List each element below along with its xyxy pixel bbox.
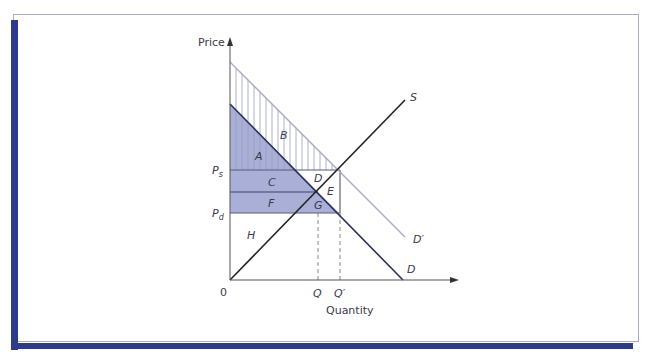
supply-demand-diagram: Price Quantity 0 S D′ D Ps Pd Q Q′ A B C… xyxy=(0,0,655,359)
area-b-label: B xyxy=(280,129,288,142)
area-a-label: A xyxy=(254,150,263,163)
area-f-label: F xyxy=(268,197,275,210)
area-d-label: D xyxy=(314,172,322,185)
q-prime-label: Q′ xyxy=(334,287,346,300)
supply-label: S xyxy=(410,91,417,104)
demand-label: D xyxy=(407,263,415,276)
area-c-label: C xyxy=(268,176,276,189)
area-f-region xyxy=(230,192,339,213)
pd-label: Pd xyxy=(212,207,225,222)
y-axis-label: Price xyxy=(198,36,225,49)
x-axis-label: Quantity xyxy=(326,304,374,317)
ps-label: Ps xyxy=(212,164,223,179)
area-h-label: H xyxy=(247,229,255,242)
area-e-label: E xyxy=(327,185,334,198)
origin-label: 0 xyxy=(220,286,227,299)
q-label: Q xyxy=(313,287,322,300)
area-g-label: G xyxy=(314,199,323,212)
x-axis-arrow-icon xyxy=(450,277,459,283)
shifted-demand-label: D′ xyxy=(413,233,424,246)
y-axis-arrow-icon xyxy=(227,37,233,46)
